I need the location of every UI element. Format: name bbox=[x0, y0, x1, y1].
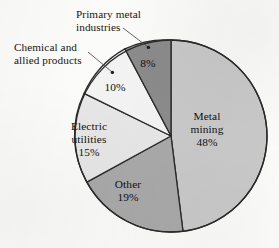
slice-percent-text: 48% bbox=[179, 136, 235, 149]
slice-label-line-1: Other bbox=[102, 178, 154, 191]
callout-label-line-1: Primary metal bbox=[76, 8, 141, 21]
callout-label-chemical-allied-products: Chemical and allied products bbox=[14, 41, 82, 66]
slice-value-chemical-allied-products: 10% bbox=[98, 81, 132, 94]
slice-label-line-2: utilities bbox=[58, 133, 120, 146]
slice-label-line-1: Metal bbox=[179, 110, 235, 123]
slice-percent-text: 8% bbox=[133, 57, 163, 70]
slice-percent-text: 19% bbox=[102, 191, 154, 204]
callout-label-line-2: industries bbox=[76, 21, 141, 34]
callout-label-line-1: Chemical and bbox=[14, 41, 82, 54]
callout-label-line-2: allied products bbox=[14, 54, 82, 67]
slice-value-primary-metal-industries: 8% bbox=[133, 57, 163, 70]
slice-label-electric-utilities: Electric utilities 15% bbox=[58, 120, 120, 158]
slice-percent-text: 10% bbox=[98, 81, 132, 94]
slice-label-line-2: mining bbox=[179, 123, 235, 136]
pie-chart-figure: Primary metal industries Chemical and al… bbox=[0, 0, 279, 248]
slice-label-line-1: Electric bbox=[58, 120, 120, 133]
slice-percent-text: 15% bbox=[58, 146, 120, 159]
pie-chart-canvas bbox=[0, 0, 279, 248]
callout-label-primary-metal-industries: Primary metal industries bbox=[76, 8, 141, 33]
slice-label-other: Other 19% bbox=[102, 178, 154, 204]
slice-label-metal-mining: Metal mining 48% bbox=[179, 110, 235, 148]
